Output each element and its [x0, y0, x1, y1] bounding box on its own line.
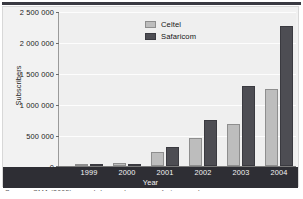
chart-legend: Celtel Safaricom	[145, 19, 207, 43]
x-tick-label-2002: 2002	[194, 168, 211, 177]
y-tick-label: 1 000 000	[20, 101, 54, 110]
y-tickmark	[56, 74, 59, 75]
bar-safaricom-2003	[242, 86, 255, 166]
bar-safaricom-2004	[280, 26, 293, 166]
legend-swatch-icon-celtel	[145, 21, 156, 28]
bar-safaricom-2001	[166, 147, 179, 166]
x-tick-label-2001: 2001	[156, 168, 173, 177]
x-tick-label-2000: 2000	[118, 168, 135, 177]
y-tick-label: 500 000	[26, 132, 54, 141]
bar-group-2000	[112, 12, 144, 166]
x-axis-title: Year	[3, 178, 298, 187]
bar-celtel-2000	[113, 163, 126, 166]
bar-safaricom-1999	[90, 164, 103, 166]
chart-figure: Subscribers 2 500 000 2 000 000 1 500 00…	[0, 0, 303, 199]
legend-swatch-icon-safaricom	[145, 33, 156, 40]
y-tickmark	[56, 105, 59, 106]
x-axis-band: 1999 2000 2001 2002 2003 2004 Year	[3, 167, 298, 188]
legend-label-celtel: Celtel	[161, 20, 181, 29]
y-tickmark	[56, 12, 59, 13]
bar-safaricom-2002	[204, 120, 217, 166]
bar-celtel-2004	[265, 89, 278, 166]
legend-label-safaricom: Safaricom	[161, 32, 196, 41]
bar-safaricom-2000	[128, 164, 141, 166]
bar-celtel-1999	[75, 164, 88, 166]
bar-celtel-2002	[189, 138, 202, 166]
x-tick-label-2004: 2004	[270, 168, 287, 177]
source-caption-text: Source: CMA (2005), www.bdp.com.ke, www.…	[5, 190, 206, 196]
top-divider-rule	[2, 2, 301, 5]
bar-group-1999	[74, 12, 106, 166]
chart-card: Subscribers 2 500 000 2 000 000 1 500 00…	[2, 6, 299, 187]
x-tick-label-2003: 2003	[232, 168, 249, 177]
y-axis-tick-labels: 2 500 000 2 000 000 1 500 000 1 000 000 …	[3, 7, 57, 188]
x-tick-label-1999: 1999	[80, 168, 97, 177]
y-tick-label: 2 500 000	[20, 8, 54, 17]
y-tick-label: 1 500 000	[20, 70, 54, 79]
source-caption-strip: Source: CMA (2005), www.bdp.com.ke, www.…	[0, 190, 303, 199]
y-tickmark	[56, 43, 59, 44]
legend-item-safaricom: Safaricom	[145, 31, 207, 42]
bar-celtel-2001	[151, 152, 164, 166]
bar-celtel-2003	[227, 124, 240, 166]
y-tickmark	[56, 136, 59, 137]
y-tick-label: 2 000 000	[20, 39, 54, 48]
bar-group-2003	[226, 12, 258, 166]
legend-item-celtel: Celtel	[145, 19, 207, 30]
bar-group-2004	[264, 12, 296, 166]
